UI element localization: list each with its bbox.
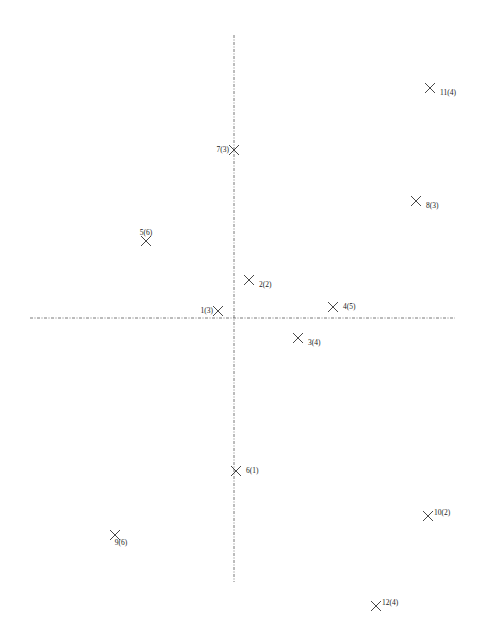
- point-label: 12(4): [382, 598, 399, 607]
- point-label: 3(4): [308, 338, 321, 347]
- x-marker-icon: [423, 511, 433, 521]
- data-point: 11(4): [425, 83, 456, 97]
- point-label: 7(3): [217, 145, 230, 154]
- axes: [30, 35, 455, 582]
- data-points: 1(3)2(2)3(4)4(5)5(6)6(1)7(3)8(3)9(6)10(2…: [110, 83, 456, 611]
- point-label: 2(2): [259, 280, 272, 289]
- x-marker-icon: [425, 83, 435, 93]
- x-marker-icon: [371, 601, 381, 611]
- point-label: 8(3): [426, 201, 439, 210]
- data-point: 2(2): [244, 275, 272, 289]
- x-marker-icon: [411, 196, 421, 206]
- point-label: 9(6): [115, 538, 128, 547]
- data-point: 3(4): [293, 333, 321, 347]
- data-point: 10(2): [423, 508, 451, 521]
- x-marker-icon: [293, 333, 303, 343]
- x-marker-icon: [213, 306, 223, 316]
- x-marker-icon: [229, 145, 239, 155]
- scatter-plot: 1(3)2(2)3(4)4(5)5(6)6(1)7(3)8(3)9(6)10(2…: [0, 0, 477, 618]
- data-point: 4(5): [328, 302, 356, 312]
- x-marker-icon: [328, 302, 338, 312]
- data-point: 6(1): [231, 466, 259, 476]
- data-point: 9(6): [110, 530, 128, 547]
- data-point: 7(3): [217, 145, 240, 155]
- data-point: 12(4): [371, 598, 399, 611]
- point-label: 1(3): [201, 306, 214, 315]
- x-marker-icon: [141, 236, 151, 246]
- data-point: 1(3): [201, 306, 224, 316]
- point-label: 5(6): [140, 228, 153, 237]
- data-point: 5(6): [140, 228, 153, 246]
- point-label: 6(1): [246, 466, 259, 475]
- point-label: 11(4): [440, 88, 456, 97]
- data-point: 8(3): [411, 196, 439, 210]
- x-marker-icon: [244, 275, 254, 285]
- point-label: 10(2): [434, 508, 451, 517]
- point-label: 4(5): [343, 302, 356, 311]
- x-marker-icon: [231, 466, 241, 476]
